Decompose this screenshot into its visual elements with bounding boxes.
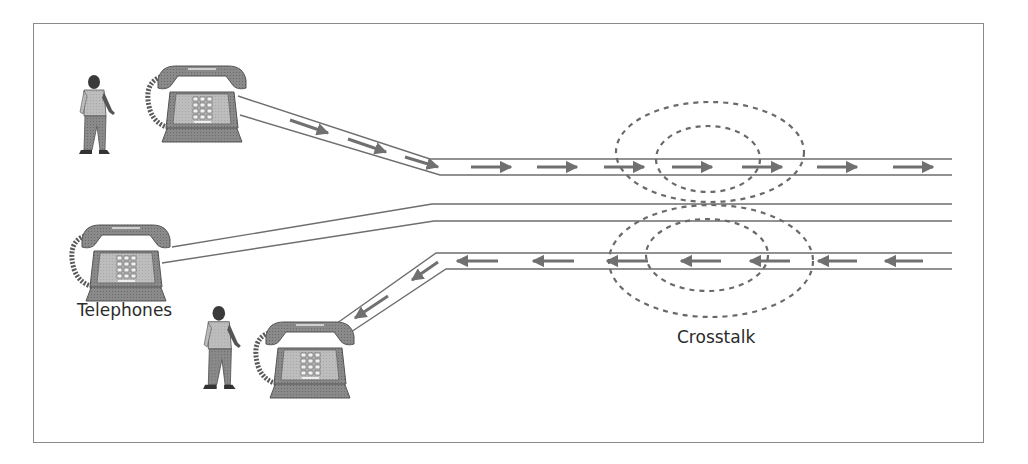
- telephone-middle: [72, 225, 170, 301]
- crosstalk-diagram: Telephones Crosstalk: [0, 0, 1028, 464]
- line-pair-middle: [162, 204, 952, 263]
- crosstalk-field-top: [616, 102, 804, 202]
- diagram-canvas: [0, 0, 1028, 464]
- signal-arrows-outgoing: [290, 120, 933, 167]
- line-pair-top: [238, 96, 952, 175]
- telephone-bottom: [256, 322, 354, 398]
- telephone-top: [148, 66, 246, 142]
- crosstalk-label: Crosstalk: [677, 327, 755, 347]
- person-bottom-caller: [203, 306, 241, 389]
- person-top-caller: [79, 75, 115, 154]
- telephones-label: Telephones: [77, 300, 172, 320]
- line-pair-bottom: [333, 253, 952, 336]
